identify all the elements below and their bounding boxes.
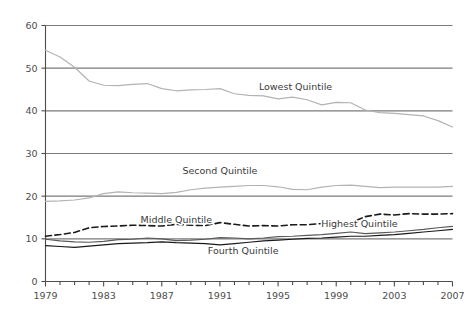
series-line-second-quintile — [46, 185, 453, 201]
series-line-lowest-quintile — [46, 50, 453, 127]
y-tick-label: 50 — [25, 63, 37, 74]
x-tick-label: 1987 — [150, 290, 174, 301]
y-tick-label: 10 — [25, 233, 37, 244]
series-label-middle-quintile: Middle Quintile — [141, 214, 213, 225]
x-tick-label: 2003 — [382, 290, 406, 301]
y-tick-label: 30 — [25, 148, 37, 159]
y-tick-label: 0 — [31, 276, 37, 287]
y-tick-label: 20 — [25, 191, 37, 202]
series-label-second-quintile: Second Quintile — [182, 165, 257, 176]
series-label-lowest-quintile: Lowest Quintile — [259, 81, 332, 92]
line-chart: 0102030405060197919831987199119951999200… — [0, 0, 473, 313]
x-tick-label: 1991 — [208, 290, 232, 301]
x-tick-label: 1999 — [324, 290, 348, 301]
series-label-highest-quintile: Highest Quintile — [321, 218, 398, 229]
y-tick-label: 60 — [25, 20, 37, 31]
x-tick-label: 1995 — [266, 290, 290, 301]
x-tick-label: 2007 — [440, 290, 464, 301]
chart-container: 0102030405060197919831987199119951999200… — [0, 0, 473, 313]
x-tick-label: 1983 — [92, 290, 116, 301]
series-label-fourth-quintile: Fourth Quintile — [208, 245, 279, 256]
x-tick-label: 1979 — [33, 290, 57, 301]
y-tick-label: 40 — [25, 105, 37, 116]
